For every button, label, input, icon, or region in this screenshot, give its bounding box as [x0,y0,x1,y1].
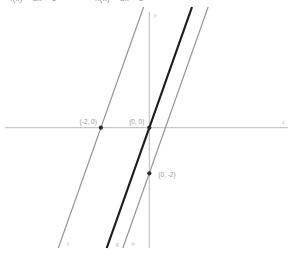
point-label-(0, 0): (0, 0) [129,118,144,126]
coordinate-plane-svg: xyfgh(-2, 0)(0, 0)(0, -2) [0,0,293,259]
x-axis-label: x [282,119,285,125]
line-label-g: g [116,241,119,247]
point-label-(-2, 0): (-2, 0) [80,118,97,126]
point-(-2, 0) [99,126,103,130]
graph-canvas: f(x) = 3x + 6 h(x) = 3x − 2 xyfgh(-2, 0)… [0,0,293,259]
point-(0, -2) [147,171,151,175]
point-(0, 0) [147,126,151,130]
point-label-(0, -2): (0, -2) [158,171,175,179]
line-label-f: f [67,241,69,247]
y-axis-label: y [154,12,157,18]
line-label-h: h [132,241,135,247]
